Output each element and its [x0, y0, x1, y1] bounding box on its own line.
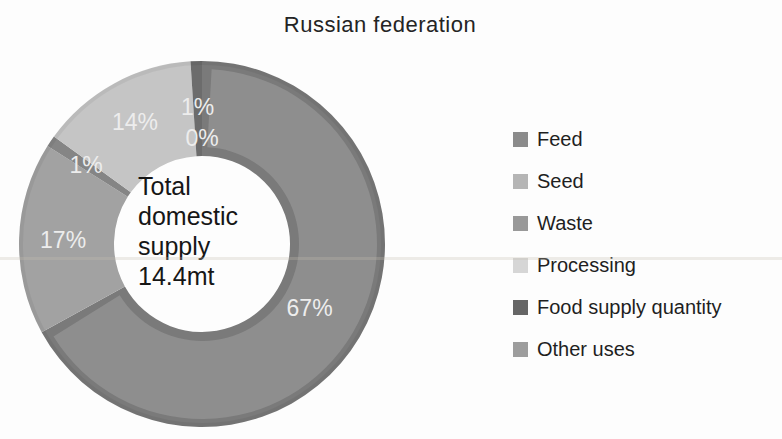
- legend-item-other-uses: Other uses: [513, 328, 722, 370]
- slice-label-other-uses: 0%: [185, 125, 218, 151]
- legend-item-seed: Seed: [513, 160, 722, 202]
- legend-label-waste: Waste: [537, 212, 593, 235]
- slice-label-feed: 67%: [287, 295, 333, 321]
- slice-label-food-supply-quantity: 1%: [181, 94, 214, 120]
- figure-canvas: Russian federation 67%17%1%14%1%0% Total…: [0, 0, 782, 439]
- legend-item-food-supply-quantity: Food supply quantity: [513, 286, 722, 328]
- legend-label-feed: Feed: [537, 128, 583, 151]
- slice-label-seed: 17%: [40, 227, 86, 253]
- center-label-line: domestic: [138, 201, 238, 231]
- chart-title: Russian federation: [190, 12, 570, 38]
- legend-swatch-processing: [513, 258, 528, 273]
- legend-item-waste: Waste: [513, 202, 722, 244]
- center-label-line: supply: [138, 231, 238, 261]
- chart-center-label: Total domestic supply 14.4mt: [138, 171, 238, 291]
- chart-legend: FeedSeedWasteProcessingFood supply quant…: [513, 118, 722, 370]
- legend-label-seed: Seed: [537, 170, 584, 193]
- legend-swatch-waste: [513, 216, 528, 231]
- slice-label-waste: 1%: [70, 152, 103, 178]
- slice-label-processing: 14%: [112, 109, 158, 135]
- legend-item-processing: Processing: [513, 244, 722, 286]
- legend-swatch-seed: [513, 174, 528, 189]
- legend-label-processing: Processing: [537, 254, 636, 277]
- legend-swatch-feed: [513, 132, 528, 147]
- legend-swatch-food-supply-quantity: [513, 300, 528, 315]
- center-label-line: Total: [138, 171, 238, 201]
- center-label-line: 14.4mt: [138, 261, 238, 291]
- legend-label-food-supply-quantity: Food supply quantity: [537, 296, 722, 319]
- legend-swatch-other-uses: [513, 342, 528, 357]
- legend-label-other-uses: Other uses: [537, 338, 635, 361]
- legend-item-feed: Feed: [513, 118, 722, 160]
